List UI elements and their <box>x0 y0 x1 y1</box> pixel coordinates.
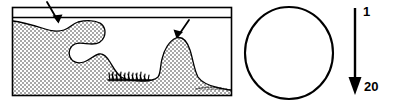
figure-canvas <box>0 0 395 105</box>
scale-arrow-head <box>349 77 362 95</box>
figure-root: 1 20 <box>0 0 395 105</box>
scale-arrow <box>349 8 362 95</box>
arrow-mound <box>174 20 190 39</box>
arrow-upper-left <box>47 2 63 24</box>
scale-top-label: 1 <box>363 5 370 18</box>
stippled-substrate <box>13 21 231 95</box>
substrate-fill <box>13 21 231 95</box>
cross-section-panel <box>13 2 232 96</box>
circle-outline <box>245 7 333 99</box>
scale-bottom-label: 20 <box>364 80 378 93</box>
